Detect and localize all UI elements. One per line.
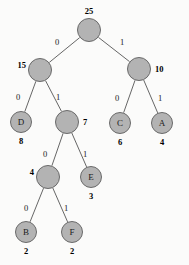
- node-weight-label: 2: [60, 247, 84, 256]
- node-weight-label: 4: [16, 168, 34, 177]
- tree-edge: [124, 80, 135, 112]
- tree-edge: [52, 133, 63, 165]
- tree-leaf-node-d[interactable]: D: [10, 111, 32, 133]
- tree-edge: [25, 81, 36, 111]
- huffman-tree-figure: DCAEBF 25151087644322 0101010101: [0, 0, 189, 265]
- edge-bit-label: 0: [16, 93, 20, 102]
- edge-bit-label: 1: [83, 150, 87, 159]
- edge-bit-label: 0: [55, 38, 59, 47]
- edge-bit-label: 0: [43, 150, 47, 159]
- node-symbol-label: F: [69, 228, 74, 237]
- tree-edge: [98, 37, 129, 61]
- node-symbol-label: D: [18, 118, 25, 127]
- node-weight-label: 25: [77, 7, 101, 16]
- tree-internal-node[interactable]: [77, 18, 101, 42]
- tree-internal-node[interactable]: [36, 165, 60, 189]
- node-weight-label: 6: [108, 138, 132, 147]
- node-weight-label: 10: [155, 65, 164, 74]
- edge-bit-label: 1: [56, 93, 60, 102]
- tree-edge: [144, 80, 158, 113]
- node-symbol-label: E: [88, 173, 94, 182]
- node-symbol-label: B: [23, 228, 29, 237]
- edge-bit-label: 0: [24, 204, 28, 213]
- tree-leaf-node-f[interactable]: F: [61, 221, 83, 243]
- edge-bit-label: 1: [120, 38, 124, 47]
- node-weight-label: 7: [83, 118, 87, 127]
- tree-internal-node[interactable]: [55, 110, 79, 134]
- node-symbol-label: C: [117, 119, 123, 128]
- tree-leaf-node-c[interactable]: C: [109, 112, 131, 134]
- edge-bit-label: 1: [64, 204, 68, 213]
- tree-leaf-node-e[interactable]: E: [80, 166, 102, 188]
- tree-leaf-node-a[interactable]: A: [151, 112, 173, 134]
- edge-bit-label: 0: [115, 94, 119, 103]
- tree-leaf-node-b[interactable]: B: [15, 221, 37, 243]
- node-weight-label: 15: [8, 61, 26, 70]
- tree-internal-node[interactable]: [127, 57, 151, 81]
- node-weight-label: 4: [150, 138, 174, 147]
- tree-internal-node[interactable]: [28, 58, 52, 82]
- node-weight-label: 8: [9, 137, 33, 146]
- node-weight-label: 3: [79, 192, 103, 201]
- tree-edge: [30, 188, 43, 222]
- edge-bit-label: 1: [158, 94, 162, 103]
- node-symbol-label: A: [159, 119, 166, 128]
- node-weight-label: 2: [14, 247, 38, 256]
- tree-edge: [49, 38, 79, 63]
